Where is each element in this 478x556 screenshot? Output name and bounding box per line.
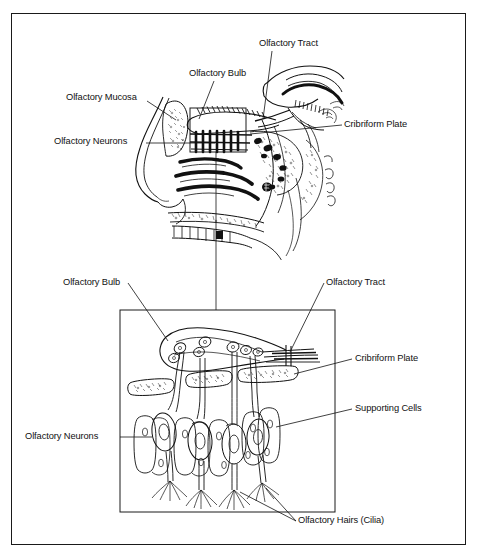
epithelium-detail-drawing xyxy=(128,328,320,510)
label-cribriform-plate-lower: Cribriform Plate xyxy=(355,353,418,364)
lower-leader-lines xyxy=(120,283,352,521)
supporting-cells-group xyxy=(134,408,280,476)
cilia-tuft-1 xyxy=(152,481,187,501)
label-supporting-cells-lower: Supporting Cells xyxy=(355,403,422,414)
label-cribriform-plate-upper: Cribriform Plate xyxy=(344,119,407,130)
cilia-tuft-3 xyxy=(219,490,250,510)
upper-leader-lines xyxy=(146,51,342,143)
cilia-tuft-2 xyxy=(186,490,217,509)
label-olfactory-hairs-cilia: Olfactory Hairs (Cilia) xyxy=(298,515,384,526)
label-olfactory-bulb-upper: Olfactory Bulb xyxy=(189,68,246,79)
label-olfactory-neurons-upper: Olfactory Neurons xyxy=(54,136,127,147)
figure-root: Olfactory Tract Olfactory Bulb Olfactory… xyxy=(0,0,478,556)
label-olfactory-tract-upper: Olfactory Tract xyxy=(259,38,318,49)
label-olfactory-bulb-lower: Olfactory Bulb xyxy=(63,277,120,288)
sagittal-head-drawing xyxy=(136,66,344,266)
label-olfactory-mucosa-upper: Olfactory Mucosa xyxy=(66,92,137,103)
label-olfactory-neurons-lower: Olfactory Neurons xyxy=(25,431,98,442)
cilia-tuft-4 xyxy=(247,483,279,502)
label-olfactory-tract-lower: Olfactory Tract xyxy=(326,277,385,288)
